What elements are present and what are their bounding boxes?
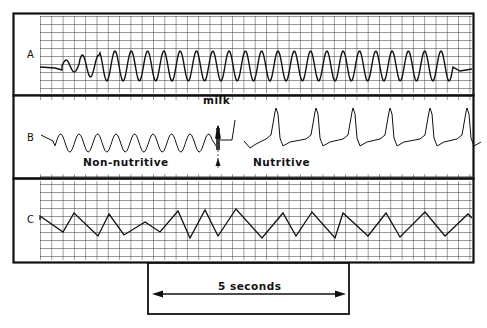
panel-label-c: C [27,214,34,225]
panel-b: B milk Non-nutritive Nutritive [14,94,482,179]
scale-bar: 5 seconds [148,263,349,314]
grid-c [40,181,472,260]
sucking-pattern-figure: A B milk Non-nutritive Nutritive C 5 sec… [0,0,487,328]
panel-label-a: A [27,49,34,60]
caption-nutritive: Nutritive [253,156,310,168]
caption-non-nutritive: Non-nutritive [83,156,169,168]
panel-a: A [14,14,474,96]
milk-label: milk [203,94,231,106]
panel-c: C [14,179,474,263]
panel-label-b: B [27,132,34,143]
scale-label: 5 seconds [218,280,282,292]
